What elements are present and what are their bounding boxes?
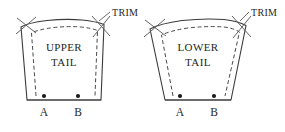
panel-upper-tail: TRIM A B UPPER TAIL xyxy=(16,7,138,118)
upper-tail-point-b-label: B xyxy=(74,106,82,118)
panel-lower-tail: TRIM A B LOWER TAIL xyxy=(144,7,277,118)
upper-tail-title-line1: UPPER xyxy=(46,41,82,53)
lower-tail-trim-label: TRIM xyxy=(251,7,277,18)
lower-tail-trim-mark-left xyxy=(144,19,166,37)
lower-tail-title-line1: LOWER xyxy=(177,41,218,53)
upper-tail-point-a-marker xyxy=(42,94,46,98)
lower-tail-point-a-label: A xyxy=(176,106,185,118)
upper-tail-trim-mark-left xyxy=(16,17,36,34)
upper-tail-point-b-marker xyxy=(76,94,80,98)
upper-tail-trim-leader xyxy=(99,12,110,21)
upper-tail-title-line2: TAIL xyxy=(51,56,77,68)
lower-tail-title-line2: TAIL xyxy=(185,56,211,68)
lower-tail-point-b-marker xyxy=(212,94,216,98)
diagram-canvas: TRIM A B UPPER TAIL TRIM xyxy=(0,0,285,132)
upper-tail-trim-label: TRIM xyxy=(112,7,138,18)
lower-tail-point-b-label: B xyxy=(210,106,218,118)
lower-tail-point-a-marker xyxy=(178,94,182,98)
pattern-diagram: TRIM A B UPPER TAIL TRIM xyxy=(0,0,285,132)
upper-tail-point-a-label: A xyxy=(40,106,49,118)
